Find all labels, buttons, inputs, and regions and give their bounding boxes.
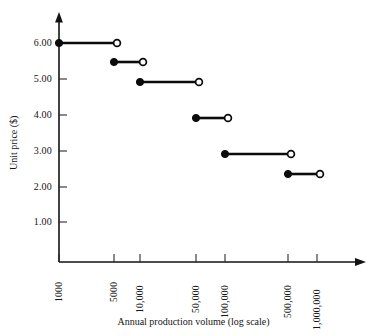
y-axis-title: Unit price ($) xyxy=(8,116,19,170)
x-axis-arrow-icon xyxy=(355,258,366,266)
step-segment-1 xyxy=(55,39,120,46)
step-segment-2 xyxy=(110,58,146,65)
step-segment-4-start-marker xyxy=(192,114,199,121)
step-segment-5-start-marker xyxy=(221,150,228,157)
step-segment-2-end-marker xyxy=(140,59,147,66)
x-tick-label-500000: 500,000 xyxy=(283,285,293,318)
step-segment-4-end-marker xyxy=(225,115,232,122)
step-segment-3-start-marker xyxy=(136,78,143,85)
y-axis-arrow-icon xyxy=(55,12,63,23)
x-tick-label-50000: 50,000 xyxy=(191,285,201,313)
chart-figure: 6.00 5.00 4.00 3.00 2.00 1.00 1000 5000 … xyxy=(0,0,387,336)
step-segments xyxy=(55,39,323,177)
step-segment-5-end-marker xyxy=(288,151,295,158)
step-segment-4 xyxy=(192,114,231,121)
step-segment-1-start-marker xyxy=(55,39,62,46)
step-segment-6-end-marker xyxy=(317,171,324,178)
x-tick-label-1000: 1000 xyxy=(54,282,64,302)
y-tick-label-4: 4.00 xyxy=(18,109,52,120)
step-segment-5 xyxy=(221,150,294,157)
y-tick-label-5: 5.00 xyxy=(18,73,52,84)
step-segment-6-start-marker xyxy=(284,170,291,177)
step-segment-3 xyxy=(136,78,202,85)
step-segment-2-start-marker xyxy=(110,58,117,65)
step-segment-6 xyxy=(284,170,323,177)
x-axis-ticks xyxy=(59,254,317,262)
x-tick-label-10000: 10,000 xyxy=(135,285,145,313)
step-segment-1-end-marker xyxy=(114,40,121,47)
step-segment-3-end-marker xyxy=(196,79,203,86)
y-tick-label-6: 6.00 xyxy=(18,37,52,48)
y-tick-label-1: 1.00 xyxy=(18,216,52,227)
y-tick-label-3: 3.00 xyxy=(18,145,52,156)
x-axis-title: Annual production volume (log scale) xyxy=(0,316,387,327)
x-tick-label-5000: 5000 xyxy=(109,282,119,302)
y-tick-label-2: 2.00 xyxy=(18,181,52,192)
x-tick-label-100000: 100,000 xyxy=(220,285,230,318)
y-axis-ticks xyxy=(59,43,67,222)
